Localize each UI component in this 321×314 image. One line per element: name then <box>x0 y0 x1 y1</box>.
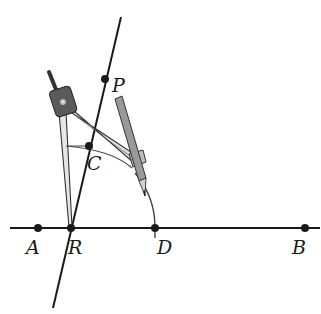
label-d: D <box>156 236 172 258</box>
point-d <box>151 224 159 232</box>
point-p <box>101 75 109 83</box>
diagram-canvas: P C A R D B <box>0 0 321 314</box>
label-a: A <box>24 236 40 258</box>
point-r <box>67 224 75 232</box>
point-a <box>34 224 42 232</box>
label-r: R <box>67 236 82 258</box>
point-c <box>85 142 93 150</box>
label-p: P <box>111 74 126 96</box>
label-b: B <box>291 236 306 258</box>
point-b <box>301 224 309 232</box>
label-c: C <box>87 152 102 174</box>
geometry-diagram: P C A R D B <box>0 0 321 314</box>
